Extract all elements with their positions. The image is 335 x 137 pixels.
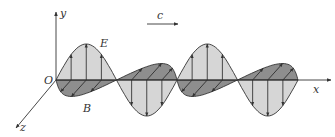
b-field-lobe bbox=[117, 64, 178, 81]
b-field-lobe bbox=[56, 80, 117, 97]
em-wave-diagram: O y x z E B c bbox=[0, 0, 335, 137]
b-field-lobe bbox=[177, 80, 238, 97]
electric-field-label: E bbox=[99, 37, 108, 50]
origin-label: O bbox=[44, 74, 53, 87]
z-axis-label: z bbox=[19, 121, 26, 134]
magnetic-field-label: B bbox=[82, 102, 91, 115]
b-field-lobe bbox=[238, 64, 299, 81]
velocity-label: c bbox=[157, 9, 163, 22]
y-axis-label: y bbox=[59, 7, 67, 20]
x-axis-label: x bbox=[313, 83, 320, 96]
